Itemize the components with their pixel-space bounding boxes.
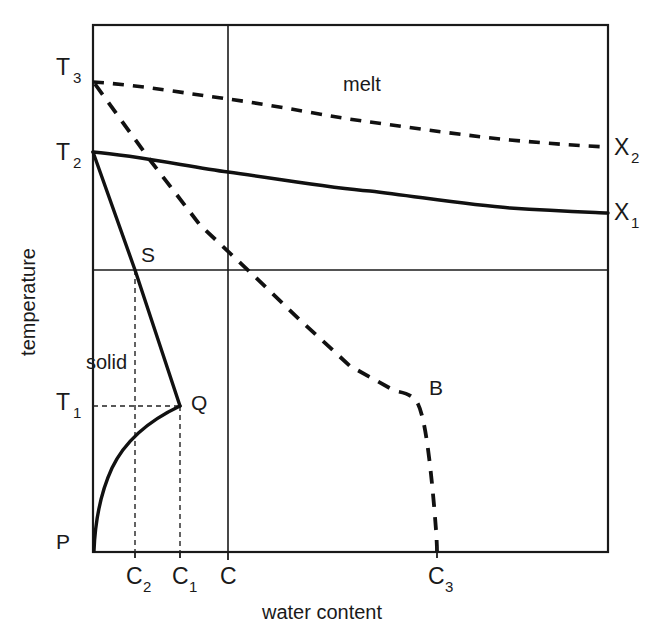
x-tick-label-C: C [220,563,237,589]
curve-solidus-upper [93,152,608,213]
x-tick-label-C2: C 2 [126,563,151,595]
point-label-S: S [141,243,155,266]
x-tick-label-C2-base: C [126,563,143,589]
x-tick-label-C1-base: C [172,563,189,589]
phase-diagram-figure: T 3 T 2 T 1 C 2 C 1 C C 3 X 2 [0,0,655,630]
end-label-X2-sub: 2 [631,149,639,166]
region-label-melt: melt [343,73,381,95]
curve-solid-field-boundary-lower [94,406,180,551]
y-tick-label-T3: T 3 [56,54,81,86]
curve-steep-dashed-branch [95,84,437,552]
x-tick-label-C-base: C [220,563,237,589]
x-tick-label-C1-sub: 1 [189,578,197,595]
y-tick-label-T2-base: T [56,139,70,165]
y-axis-title: temperature [17,248,39,356]
end-label-X2: X 2 [614,134,639,166]
x-tick-label-C1: C 1 [172,563,197,595]
end-label-X2-base: X [614,134,629,160]
x-tick-label-C2-sub: 2 [143,578,151,595]
end-label-X1-sub: 1 [631,214,639,231]
plot-frame [93,25,608,552]
point-label-Q: Q [191,391,207,414]
y-tick-label-T1-base: T [56,389,70,415]
y-tick-label-T3-base: T [56,54,70,80]
point-label-B: B [429,376,443,399]
x-tick-label-C3: C 3 [428,563,453,595]
end-label-X1-base: X [614,199,629,225]
end-label-X1: X 1 [614,199,639,231]
x-tick-label-C3-sub: 3 [445,578,453,595]
region-label-solid: solid [86,351,127,373]
y-tick-label-T1-sub: 1 [73,404,81,421]
phase-diagram-svg: T 3 T 2 T 1 C 2 C 1 C C 3 X 2 [0,0,655,630]
y-tick-label-T3-sub: 3 [73,69,81,86]
x-axis-title: water content [261,601,383,623]
y-tick-label-T2-sub: 2 [73,154,81,171]
point-label-P: P [56,530,70,553]
x-tick-label-C3-base: C [428,563,445,589]
y-tick-label-T1: T 1 [56,389,81,421]
y-tick-label-T2: T 2 [56,139,81,171]
